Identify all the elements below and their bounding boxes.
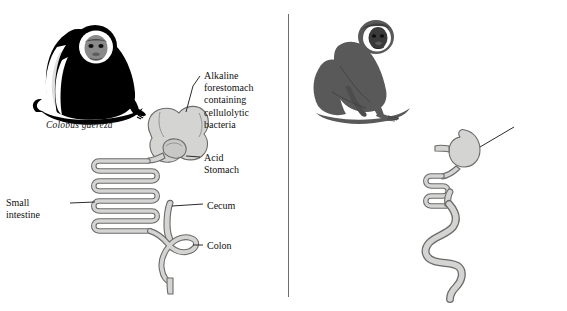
- comparative-digestive-anatomy-figure: Colobus guereza: [0, 0, 567, 311]
- leader-acid-stomach-right: [480, 127, 514, 147]
- leader-lines-right: [480, 127, 514, 147]
- cercopithecus-digestive-tract: [288, 0, 567, 311]
- label-alkaline-forestomach: Alkaline forestomach containing cellulol…: [204, 70, 286, 131]
- label-small-intestine: Small intestine: [6, 197, 68, 221]
- panel-cercopithecus: Cercopithecus pygerythrus: [288, 0, 567, 311]
- panel-colobus: Colobus guereza: [0, 0, 288, 311]
- label-acid-stomach-left: Acid Stomach: [204, 152, 274, 176]
- acid-stomach-organ: [449, 130, 480, 167]
- label-cecum: Cecum: [207, 200, 267, 212]
- label-colon: Colon: [207, 240, 267, 252]
- acid-stomach-organ: [163, 139, 186, 158]
- leader-cecum: [172, 204, 203, 206]
- leader-small-intestine: [70, 202, 95, 203]
